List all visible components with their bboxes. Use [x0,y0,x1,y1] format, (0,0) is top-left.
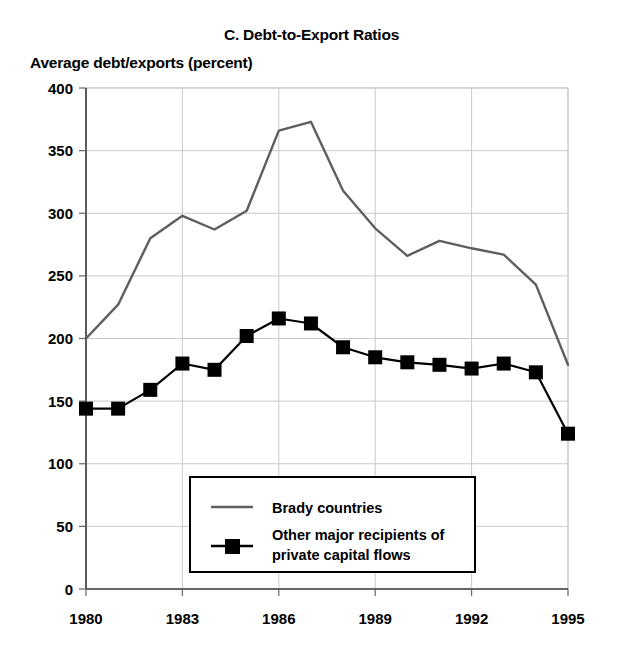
data-point-marker [79,402,93,416]
y-tick-label: 350 [48,142,73,159]
data-point-marker [400,355,414,369]
data-point-marker [208,363,222,377]
data-point-marker [529,365,543,379]
y-axis-tick-labels: 050100150200250300350400 [48,80,86,598]
data-point-marker [561,427,575,441]
data-point-marker [240,329,254,343]
data-point-marker [143,383,157,397]
legend-label-brady-countries: Brady countries [272,500,382,516]
data-point-marker [304,316,318,330]
x-tick-label: 1983 [166,610,199,627]
legend-label-other-major-recipients: Other major recipients of [272,527,445,543]
y-tick-label: 100 [48,455,73,472]
line-chart-plot: 050100150200250300350400 198019831986198… [0,0,623,671]
y-tick-label: 300 [48,205,73,222]
x-tick-label: 1992 [455,610,488,627]
x-tick-label: 1986 [262,610,295,627]
data-point-marker [368,350,382,364]
y-tick-label: 150 [48,393,73,410]
x-tick-label: 1995 [551,610,584,627]
data-series-group [79,122,575,441]
y-tick-label: 200 [48,330,73,347]
data-point-marker [465,362,479,376]
series-line-other-major-recipients [86,319,568,434]
data-point-marker [111,402,125,416]
y-tick-label: 50 [56,518,73,535]
legend-swatch-other-major-recipients-marker [225,539,240,554]
x-tick-label: 1980 [69,610,102,627]
y-tick-label: 400 [48,80,73,97]
data-point-marker [175,357,189,371]
figure: C. Debt-to-Export Ratios Average debt/ex… [0,0,623,671]
y-tick-label: 250 [48,267,73,284]
data-point-marker [497,357,511,371]
legend-label-other-major-recipients-line2: private capital flows [272,547,411,563]
legend: Brady countriesOther major recipients of… [190,477,475,572]
data-point-marker [432,358,446,372]
data-point-marker [336,340,350,354]
x-tick-label: 1989 [359,610,392,627]
series-line-brady-countries [86,122,568,365]
y-tick-label: 0 [65,581,73,598]
data-point-marker [272,311,286,325]
x-axis-tick-labels: 198019831986198919921995 [69,589,584,627]
